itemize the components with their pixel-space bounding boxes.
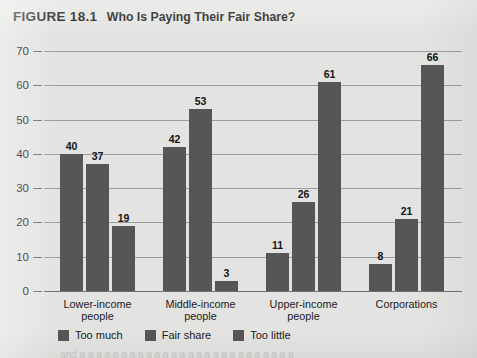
x-axis-category-label: Middle-income people bbox=[153, 298, 249, 322]
legend-label: Fair share bbox=[162, 329, 212, 341]
bar: 3 bbox=[215, 281, 238, 291]
y-axis-tick bbox=[33, 291, 42, 292]
legend-item: Too little bbox=[233, 329, 290, 341]
bar-value-label: 3 bbox=[224, 267, 230, 279]
bar-value-label: 8 bbox=[378, 250, 384, 262]
bar: 19 bbox=[112, 226, 135, 291]
bar: 37 bbox=[86, 164, 109, 291]
legend-swatch-icon bbox=[58, 330, 69, 341]
gridline bbox=[44, 85, 462, 86]
y-axis-tick bbox=[33, 154, 42, 155]
bar-value-label: 61 bbox=[324, 68, 336, 80]
y-axis-tick-label: 40 bbox=[16, 148, 29, 160]
bar-value-label: 42 bbox=[169, 133, 181, 145]
y-axis-tick-label: 50 bbox=[16, 114, 29, 126]
y-axis-tick-label: 0 bbox=[23, 285, 29, 297]
bar: 66 bbox=[421, 65, 444, 291]
chart-legend: Too muchFair shareToo little bbox=[58, 329, 291, 341]
y-axis-tick bbox=[33, 257, 42, 258]
x-axis-category-label: Corporations bbox=[359, 298, 455, 310]
bar-value-label: 53 bbox=[195, 95, 207, 107]
legend-item: Fair share bbox=[145, 329, 212, 341]
legend-label: Too little bbox=[250, 329, 290, 341]
bar-value-label: 19 bbox=[118, 212, 130, 224]
y-axis-tick bbox=[33, 85, 42, 86]
y-axis-tick-label: 20 bbox=[16, 216, 29, 228]
bar: 61 bbox=[318, 82, 341, 291]
bar: 42 bbox=[163, 147, 186, 291]
y-axis-tick-label: 10 bbox=[16, 251, 29, 263]
y-axis-tick bbox=[33, 222, 42, 223]
y-axis-tick bbox=[33, 120, 42, 121]
bar: 21 bbox=[395, 219, 418, 291]
legend-swatch-icon bbox=[145, 330, 156, 341]
legend-label: Too much bbox=[75, 329, 123, 341]
gridline bbox=[44, 51, 462, 52]
x-axis-category-label: Lower-income people bbox=[50, 298, 146, 322]
bar: 26 bbox=[292, 202, 315, 291]
bar: 53 bbox=[189, 109, 212, 291]
bar-value-label: 40 bbox=[66, 140, 78, 152]
bar-value-label: 66 bbox=[427, 51, 439, 63]
y-axis-tick bbox=[33, 188, 42, 189]
legend-swatch-icon bbox=[233, 330, 244, 341]
y-axis-tick-label: 60 bbox=[16, 79, 29, 91]
x-axis-category-label: Upper-income people bbox=[256, 298, 352, 322]
chart-plot-wrapper: 010203040506070403719Lower-income people… bbox=[0, 30, 477, 305]
bar: 8 bbox=[369, 264, 392, 291]
bar: 40 bbox=[60, 154, 83, 291]
figure-title-bar: FIGURE 18.1 Who Is Paying Their Fair Sha… bbox=[0, 0, 477, 30]
legend-item: Too much bbox=[58, 329, 123, 341]
axis-baseline bbox=[44, 291, 462, 292]
figure-container: FIGURE 18.1 Who Is Paying Their Fair Sha… bbox=[0, 0, 477, 358]
bar-value-label: 37 bbox=[92, 150, 104, 162]
y-axis-tick-label: 30 bbox=[16, 182, 29, 194]
page-bleed-text: and a a a a a a a a a a a a a a a a a a … bbox=[0, 349, 477, 358]
bar-value-label: 21 bbox=[401, 205, 413, 217]
bar: 11 bbox=[266, 253, 289, 291]
y-axis-tick bbox=[33, 51, 42, 52]
bar-value-label: 11 bbox=[272, 239, 283, 251]
page-title: Who Is Paying Their Fair Share? bbox=[107, 10, 296, 24]
y-axis-tick-label: 70 bbox=[16, 45, 29, 57]
figure-number: FIGURE 18.1 bbox=[13, 9, 97, 24]
chart-plot-area: 010203040506070403719Lower-income people… bbox=[44, 51, 462, 291]
bar-value-label: 26 bbox=[298, 188, 310, 200]
gridline bbox=[44, 154, 462, 155]
gridline bbox=[44, 120, 462, 121]
